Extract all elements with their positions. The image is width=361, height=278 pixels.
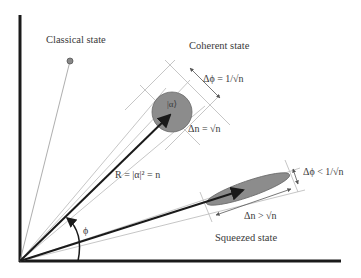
- classical-state-label: Classical state: [46, 34, 106, 45]
- squeezed-dn-label: Δn > √n: [244, 210, 277, 221]
- coherent-dphi-label: Δϕ = 1/√n: [203, 73, 244, 84]
- coherent-vector: [20, 115, 170, 261]
- squeezed-state-label: Squeezed state: [215, 232, 277, 243]
- phi-angle-arc: [67, 218, 80, 261]
- coherent-state-label: Coherent state: [189, 40, 249, 51]
- squeezed-dphi-label: Δϕ < 1/√n: [303, 166, 344, 177]
- classical-point: [67, 58, 73, 64]
- phi-label: ϕ: [83, 225, 88, 236]
- coherent-dn-label: Δn = √n: [188, 123, 221, 134]
- radius-label: R = |α|² = n: [115, 169, 160, 180]
- ket-alpha-label: |α⟩: [167, 99, 177, 109]
